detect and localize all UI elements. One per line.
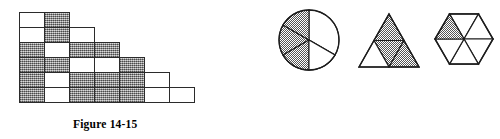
grid-cell: [144, 72, 170, 88]
grid-cell: [44, 12, 70, 28]
grid-cell: [19, 72, 45, 88]
staircase-row: [19, 72, 194, 88]
grid-cell: [19, 57, 45, 73]
grid-cell: [19, 12, 45, 28]
figure-page: Figure 14-15: [0, 0, 500, 139]
grid-cell: [44, 72, 70, 88]
grid-cell: [44, 27, 70, 43]
staircase-row: [19, 57, 194, 73]
grid-cell: [69, 42, 95, 58]
grid-cell: [19, 42, 45, 58]
grid-cell: [19, 87, 45, 103]
grid-cell: [169, 87, 195, 103]
grid-cell: [69, 57, 95, 73]
triangle-four-parts: [356, 11, 422, 71]
grid-cell: [69, 87, 95, 103]
grid-cell: [44, 42, 70, 58]
grid-cell: [69, 72, 95, 88]
staircase-row: [19, 12, 194, 28]
grid-cell: [44, 57, 70, 73]
grid-cell: [44, 87, 70, 103]
grid-cell: [94, 42, 120, 58]
figure-14-16: Figure 14-16: [250, 0, 500, 139]
grid-cell: [94, 87, 120, 103]
figure-14-15: Figure 14-15: [0, 0, 250, 139]
staircase-row: [19, 42, 194, 58]
grid-cell: [94, 57, 120, 73]
grid-cell: [144, 87, 170, 103]
grid-cell: [19, 27, 45, 43]
staircase-row: [19, 87, 194, 103]
circle-six-sectors: [275, 6, 343, 74]
grid-cell: [94, 72, 120, 88]
staircase-row: [19, 27, 194, 43]
figure-caption-14-15: Figure 14-15: [73, 118, 137, 130]
grid-cell: [119, 72, 145, 88]
triangle-part-top: [374, 14, 404, 41]
grid-cell: [119, 57, 145, 73]
hexagon-six-parts: [431, 7, 497, 71]
grid-cell: [69, 27, 95, 43]
grid-cell: [119, 87, 145, 103]
staircase-grid: [19, 12, 194, 102]
